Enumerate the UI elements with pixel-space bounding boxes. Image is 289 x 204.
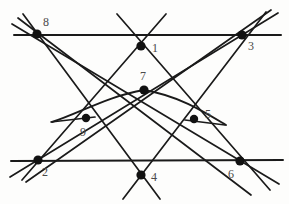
point-label-7: 7 — [140, 70, 146, 82]
point-label-9: 9 — [80, 126, 86, 138]
point-node-8[interactable] — [32, 29, 41, 38]
point-label-4: 4 — [151, 171, 157, 183]
line-1-to-2 — [22, 14, 166, 180]
point-node-2[interactable] — [33, 155, 42, 164]
point-label-2: 2 — [42, 166, 48, 178]
point-node-7[interactable] — [139, 85, 148, 94]
point-node-5[interactable] — [190, 115, 198, 123]
point-label-5: 5 — [205, 108, 211, 120]
point-node-1[interactable] — [136, 41, 145, 50]
point-label-8: 8 — [43, 16, 49, 28]
point-node-9[interactable] — [82, 114, 90, 122]
point-label-1: 1 — [152, 42, 158, 54]
point-node-4[interactable] — [136, 170, 145, 179]
incidence-figure: 123456789 — [0, 0, 289, 204]
point-label-6: 6 — [228, 168, 234, 180]
point-node-6[interactable] — [235, 156, 244, 165]
point-label-3: 3 — [248, 40, 254, 52]
point-node-3[interactable] — [237, 30, 246, 39]
